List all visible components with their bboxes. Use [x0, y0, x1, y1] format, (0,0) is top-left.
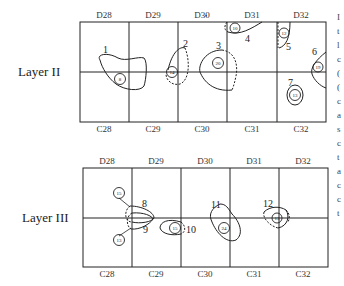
- feature-label: 3: [216, 40, 221, 51]
- circle-number: 20: [216, 61, 222, 66]
- feature-label: 12: [263, 198, 273, 209]
- feature-label: 2: [183, 38, 188, 49]
- circle-number: 15: [173, 226, 179, 231]
- feature-label: 9: [143, 224, 148, 235]
- circle-number: 12: [282, 31, 288, 36]
- circle-number: 13: [275, 216, 281, 221]
- circle-number: 13: [293, 93, 299, 98]
- layer-iii-grid: [83, 168, 328, 267]
- feature-label: 1: [103, 44, 108, 55]
- feature-label: 5: [286, 41, 291, 52]
- feature-label: 6: [312, 46, 317, 57]
- circle-number: 8: [119, 77, 122, 82]
- circle-number: 10: [233, 26, 239, 31]
- feature-2: [166, 48, 188, 85]
- circle-number: 24: [222, 226, 228, 231]
- circle-number: 13: [117, 238, 123, 243]
- feature-label: 10: [186, 224, 196, 235]
- feature-label: 7: [288, 77, 293, 88]
- circle-number: 15: [117, 191, 123, 196]
- svg-text:•: •: [205, 13, 207, 19]
- feature-label: 4: [245, 33, 250, 44]
- feature-label: 8: [142, 198, 147, 209]
- circle-number: 19: [316, 65, 322, 70]
- circle-number: 14: [170, 70, 176, 75]
- feature-6: [312, 52, 326, 88]
- layer-ii-grid: [80, 22, 326, 122]
- excavation-grid-diagram: • 1 2 3 4 5 6: [0, 0, 344, 286]
- feature-3: [200, 50, 237, 90]
- feature-4: [225, 22, 262, 33]
- cropped-text-fragment: I t l c ( ( c a s c t a c c t: [337, 10, 341, 220]
- feature-label: 11: [211, 199, 221, 210]
